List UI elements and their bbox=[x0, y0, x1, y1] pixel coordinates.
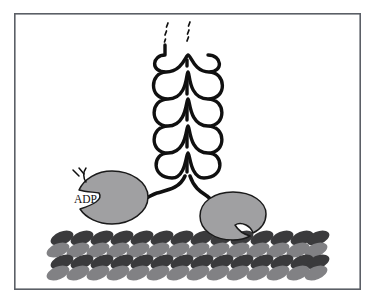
actin-filament bbox=[44, 228, 331, 284]
adp-label: ADP bbox=[74, 193, 97, 205]
figure-root: ADP bbox=[0, 0, 376, 303]
motor-protein-diagram: ADP bbox=[0, 0, 376, 303]
